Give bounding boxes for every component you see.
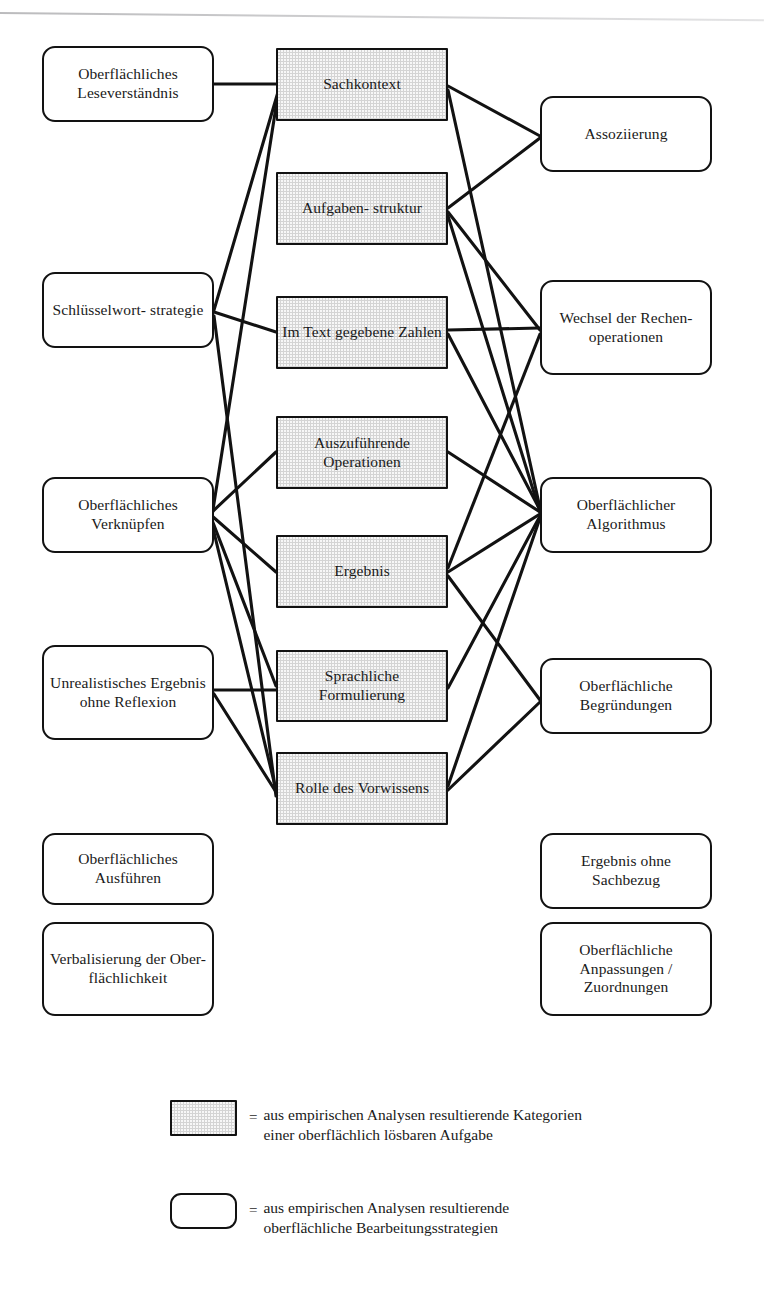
legend-swatch-strategy-box — [170, 1193, 237, 1229]
node-label-sachbezug: Ergebnis ohne Sachbezug — [542, 852, 710, 890]
legend-row-strategy: = aus empirischen Analysen resultierende… — [170, 1193, 509, 1239]
node-unrealistisch[interactable]: Unrealistisches Ergebnis ohne Reflexion — [42, 645, 214, 740]
node-label-vorwissen: Rolle des Vorwissens — [291, 779, 433, 798]
edge-verknuepfen-to-ergebnis — [212, 516, 276, 572]
scan-artifact-line — [0, 12, 764, 21]
legend-row-category: = aus empirischen Analysen resultierende… — [170, 1100, 582, 1146]
node-verknuepfen[interactable]: Oberflächliches Verknüpfen — [42, 477, 214, 553]
node-sprachliche[interactable]: Sprachliche Formulierung — [276, 650, 448, 722]
node-label-verbalisierung: Verbalisierung der Ober- flächlichkeit — [44, 950, 212, 988]
node-label-verknuepfen: Oberflächliches Verknüpfen — [44, 496, 212, 534]
legend-text-category: aus empirischen Analysen resultierende K… — [263, 1105, 582, 1146]
node-aufgabenstruktur[interactable]: Aufgaben- struktur — [276, 172, 448, 245]
edge-vorwissen-to-algorithmus — [448, 518, 540, 786]
node-wechsel[interactable]: Wechsel der Rechen- operationen — [540, 280, 712, 375]
edge-ergebnis-to-algorithmus — [448, 514, 540, 572]
diagram-canvas: Oberflächliches LeseverständnisSchlüssel… — [0, 0, 764, 1294]
node-vorwissen[interactable]: Rolle des Vorwissens — [276, 752, 448, 825]
node-anpassungen[interactable]: Oberflächliche Anpassungen / Zuordnungen — [540, 922, 712, 1016]
node-ausfuehren[interactable]: Oberflächliches Ausführen — [42, 833, 214, 905]
edge-schluesselwort-to-vorwissen — [214, 316, 276, 796]
node-label-sprachliche: Sprachliche Formulierung — [278, 667, 446, 705]
node-zahlen[interactable]: Im Text gegebene Zahlen — [276, 296, 448, 369]
node-algorithmus[interactable]: Oberflächlicher Algorithmus — [540, 477, 712, 553]
node-sachbezug[interactable]: Ergebnis ohne Sachbezug — [540, 833, 712, 909]
node-operationen[interactable]: Auszuführende Operationen — [276, 416, 448, 489]
node-assoziierung[interactable]: Assoziierung — [540, 96, 712, 172]
node-label-sachkontext: Sachkontext — [319, 75, 405, 94]
legend-equals-sign-category: = — [249, 1109, 257, 1126]
node-verbalisierung[interactable]: Verbalisierung der Ober- flächlichkeit — [42, 922, 214, 1016]
node-label-ergebnis: Ergebnis — [330, 562, 394, 581]
node-ergebnis[interactable]: Ergebnis — [276, 535, 448, 608]
node-label-anpassungen: Oberflächliche Anpassungen / Zuordnungen — [542, 941, 710, 998]
node-label-operationen: Auszuführende Operationen — [278, 434, 446, 472]
legend-text-strategy: aus empirischen Analysen resultierende o… — [263, 1198, 509, 1239]
edge-unrealistisch-to-vorwissen — [214, 694, 276, 792]
node-sachkontext[interactable]: Sachkontext — [276, 48, 448, 121]
node-leseverstaendnis[interactable]: Oberflächliches Leseverständnis — [42, 46, 214, 122]
edge-operationen-to-algorithmus — [448, 452, 540, 512]
edge-sprachliche-to-algorithmus — [448, 516, 540, 688]
edge-ergebnis-to-begruendungen — [448, 576, 540, 700]
node-label-wechsel: Wechsel der Rechen- operationen — [542, 309, 710, 347]
node-label-ausfuehren: Oberflächliches Ausführen — [44, 850, 212, 888]
legend-swatch-category-box — [170, 1100, 237, 1136]
node-label-zahlen: Im Text gegebene Zahlen — [278, 323, 446, 342]
node-begruendungen[interactable]: Oberflächliche Begründungen — [540, 658, 712, 734]
node-schluesselwort[interactable]: Schlüsselwort- strategie — [42, 272, 214, 348]
edge-sachkontext-to-algorithmus — [448, 90, 540, 508]
legend-equals-sign-strategy: = — [249, 1202, 257, 1219]
edge-aufgabenstruktur-to-assoziierung — [448, 138, 540, 208]
node-label-assoziierung: Assoziierung — [581, 125, 672, 144]
edge-verknuepfen-to-sprachliche — [212, 520, 276, 686]
edge-zahlen-to-algorithmus — [448, 334, 540, 510]
edge-verknuepfen-to-vorwissen — [212, 524, 276, 790]
edge-sachkontext-to-verknuepfen — [212, 94, 278, 516]
edge-aufgabenstruktur-to-wechsel — [448, 212, 540, 330]
node-label-schluesselwort: Schlüsselwort- strategie — [49, 301, 208, 320]
node-label-unrealistisch: Unrealistisches Ergebnis ohne Reflexion — [44, 674, 212, 712]
node-label-algorithmus: Oberflächlicher Algorithmus — [542, 496, 710, 534]
node-label-begruendungen: Oberflächliche Begründungen — [542, 677, 710, 715]
edge-aufgabenstruktur-to-algorithmus — [448, 216, 540, 512]
node-label-leseverstaendnis: Oberflächliches Leseverständnis — [44, 65, 212, 103]
edge-vorwissen-to-begruendungen — [448, 702, 540, 790]
edge-sachkontext-to-assoziierung — [448, 86, 540, 136]
node-label-aufgabenstruktur: Aufgaben- struktur — [298, 199, 426, 218]
edge-sachkontext-to-schluesselwort — [214, 92, 278, 310]
edge-verknuepfen-to-operationen — [212, 452, 276, 512]
edge-schluesselwort-to-zahlen — [214, 312, 276, 332]
edge-ergebnis-to-wechsel — [448, 334, 540, 568]
edge-zahlen-to-wechsel — [448, 328, 540, 330]
